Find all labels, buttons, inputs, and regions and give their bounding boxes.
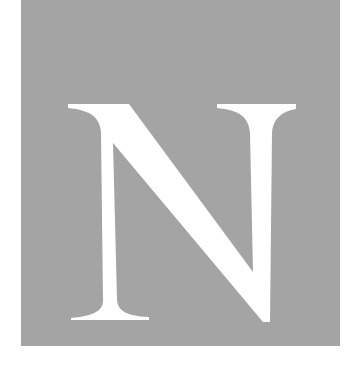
letter-n-glyph — [21, 0, 340, 346]
gray-panel: N — [21, 0, 340, 346]
